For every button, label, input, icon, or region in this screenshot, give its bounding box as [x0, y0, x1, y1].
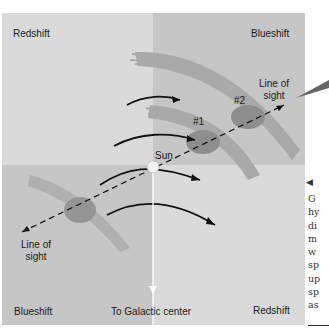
label-cloud-2: #2 — [234, 95, 245, 107]
label-cloud-1: #1 — [193, 116, 204, 128]
cloud-lower — [64, 197, 96, 223]
caption-line: sp — [308, 285, 329, 298]
label-sun: Sun — [155, 150, 173, 162]
label-blueshift-bottom-left: Blueshift — [14, 306, 52, 318]
label-blueshift-top-right: Blueshift — [251, 28, 289, 40]
label-line-of-sight-lower: Line of sight — [14, 239, 58, 263]
caption-line: w — [308, 245, 329, 258]
label-galactic-center: To Galactic center — [111, 306, 191, 318]
label-redshift-top-left: Redshift — [13, 28, 50, 40]
caption-line: sp — [308, 258, 329, 271]
label-line-of-sight-upper: Line of sight — [252, 78, 296, 102]
figure-caption: G hy di m w sp up sp as — [308, 192, 329, 312]
caption-line: di — [308, 219, 329, 232]
label-line: sight — [252, 90, 296, 102]
caption-arrow-icon: ◀ — [306, 177, 313, 187]
label-line: Line of — [252, 78, 296, 90]
caption-line: m — [308, 232, 329, 245]
caption-line: hy — [308, 205, 329, 218]
caption-rule — [308, 325, 329, 326]
sun-icon — [147, 161, 159, 173]
caption-line: G — [308, 192, 329, 205]
caption-line: up — [308, 272, 329, 285]
label-line: Line of — [14, 239, 58, 251]
label-line: sight — [14, 251, 58, 263]
galactic-rotation-diagram — [0, 0, 329, 329]
cloud-1 — [186, 130, 220, 154]
caption-line: as — [308, 298, 329, 311]
quadrant-bottom-right — [153, 165, 305, 325]
label-redshift-bottom-right: Redshift — [253, 305, 290, 317]
